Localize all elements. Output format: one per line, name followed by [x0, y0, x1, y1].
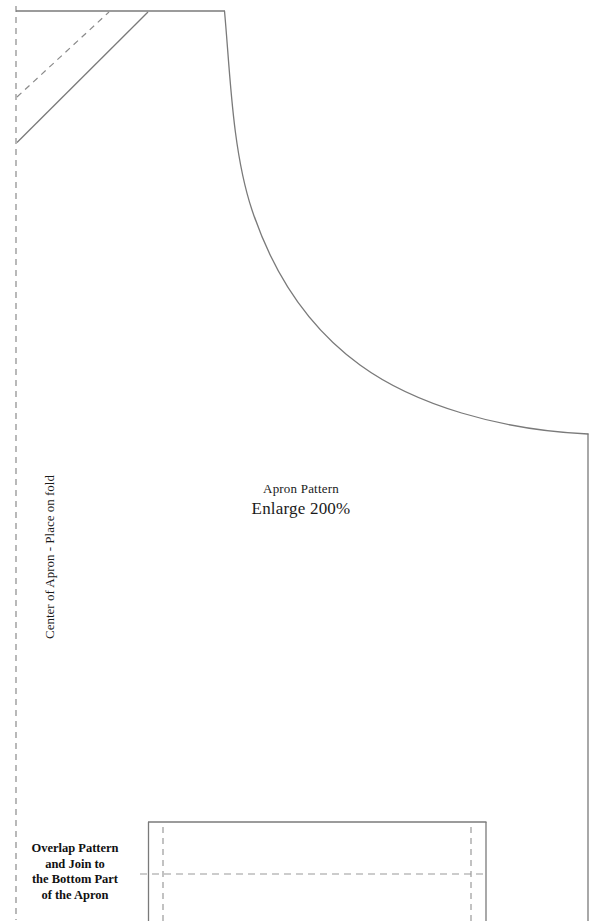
side-seam-curve: [225, 11, 589, 434]
page-title: Apron Pattern: [0, 481, 602, 497]
center-fold-label: Center of Apron - Place on fold: [42, 447, 58, 667]
pattern-sheet: Apron Pattern Enlarge 200% Center of Apr…: [0, 0, 602, 923]
bib-strap-solid-line: [17, 12, 148, 143]
bib-strap-dashed-line: [17, 12, 109, 97]
overlap-instruction: Overlap Pattern and Join to the Bottom P…: [12, 841, 138, 903]
scale-instruction: Enlarge 200%: [0, 499, 602, 519]
pattern-drawing: [0, 0, 602, 923]
